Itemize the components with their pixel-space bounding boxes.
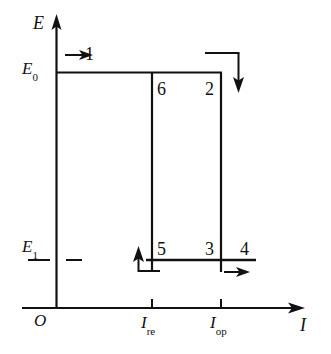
x-tick-label-Ire: Ire bbox=[141, 314, 155, 334]
y-tick-E1-base: E bbox=[22, 237, 32, 256]
x-tick-Ire-base: I bbox=[141, 313, 147, 332]
y-tick-label-E0: E0 bbox=[22, 60, 38, 80]
x-tick-Iop-base: I bbox=[210, 313, 216, 332]
x-axis-group bbox=[22, 303, 305, 314]
diagram-canvas bbox=[0, 0, 331, 354]
origin-label-O: O bbox=[34, 312, 46, 329]
x-tick-Iop-subscript: op bbox=[216, 325, 227, 337]
step-label-2: 2 bbox=[205, 80, 214, 98]
y-tick-label-E1: E1 bbox=[22, 238, 38, 258]
step-label-1: 1 bbox=[85, 45, 94, 63]
y-tick-E0-base: E bbox=[22, 59, 32, 78]
x-tick-Ire-subscript: re bbox=[147, 325, 156, 337]
x-tick-label-Iop: Iop bbox=[210, 314, 227, 334]
hysteresis-diagram-figure: E I O E0 E1 Ire Iop 1 2 3 4 5 6 bbox=[0, 0, 331, 354]
x-axis-label-I: I bbox=[300, 316, 306, 334]
step-label-6: 6 bbox=[157, 80, 166, 98]
step-label-4: 4 bbox=[240, 240, 249, 258]
y-tick-E1-subscript: 1 bbox=[32, 249, 38, 261]
arrow-step-4 bbox=[224, 267, 250, 277]
y-tick-E0-subscript: 0 bbox=[32, 71, 38, 83]
step-label-3: 3 bbox=[205, 240, 214, 258]
y-axis-group bbox=[52, 14, 62, 309]
y-axis-label-E: E bbox=[33, 14, 44, 32]
step-label-5: 5 bbox=[157, 240, 166, 258]
